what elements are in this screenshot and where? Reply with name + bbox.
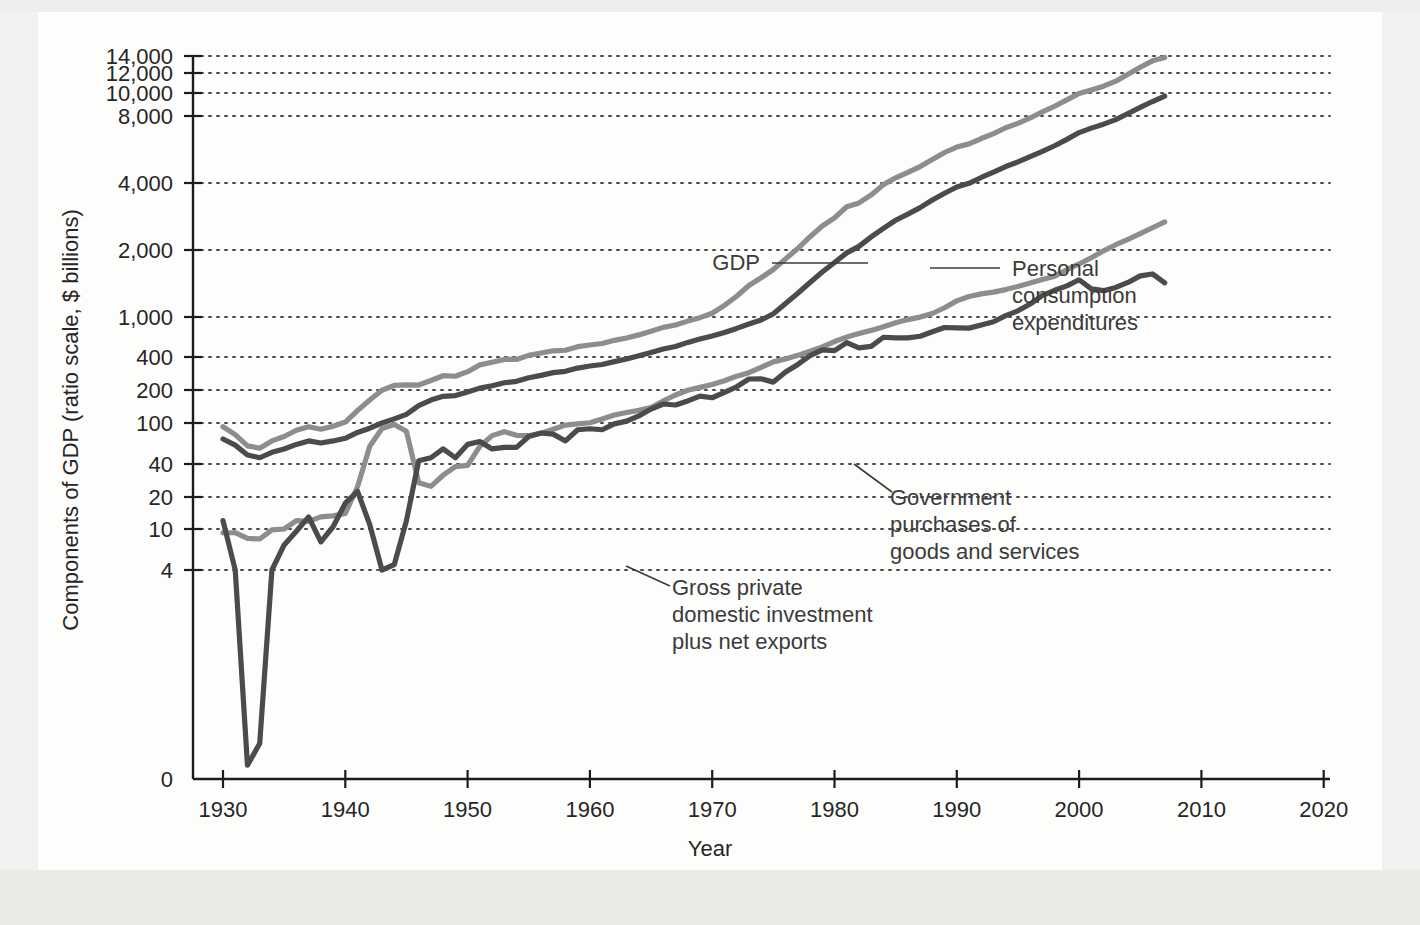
x-tick-label: 1960 <box>565 797 614 822</box>
y-tick-label: 1,000 <box>118 305 173 330</box>
x-axis-title: Year <box>688 836 732 861</box>
annotation-gdp-label: GDP <box>712 250 760 275</box>
axes-group <box>193 56 1330 779</box>
figure-page: 14,00012,00010,0008,0004,0002,0001,00040… <box>0 0 1420 925</box>
y-tick-label: 4 <box>161 558 173 583</box>
annotation-government-leader <box>854 464 892 492</box>
y-tick-label: 4,000 <box>118 171 173 196</box>
x-tick-labels: 1930194019501960197019801990200020102020 <box>199 797 1349 822</box>
annotation-investment: Gross private domestic investment plus n… <box>626 566 873 654</box>
y-tick-label: 40 <box>149 452 173 477</box>
line-chart: 14,00012,00010,0008,0004,0002,0001,00040… <box>0 0 1420 925</box>
data-series-group <box>223 58 1165 766</box>
x-tick-label: 2010 <box>1177 797 1226 822</box>
x-tick-label: 1940 <box>321 797 370 822</box>
x-tick-label: 1930 <box>199 797 248 822</box>
x-tick-label: 1990 <box>932 797 981 822</box>
annotation-investment-leader <box>626 566 670 586</box>
y-tick-label: 200 <box>136 378 173 403</box>
annotation-pce-line2: consumption <box>1012 283 1137 308</box>
x-tick-label: 2020 <box>1299 797 1348 822</box>
y-tick-label: 8,000 <box>118 104 173 129</box>
y-tick-label: 400 <box>136 345 173 370</box>
annotation-investment-line3: plus net exports <box>672 629 827 654</box>
annotation-investment-line2: domestic investment <box>672 602 873 627</box>
annotation-government-line1: Government <box>890 485 1011 510</box>
gridlines-group <box>193 56 1330 570</box>
y-tick-label: 100 <box>136 411 173 436</box>
y-tick-labels: 14,00012,00010,0008,0004,0002,0001,00040… <box>106 44 173 792</box>
y-tick-label: 0 <box>161 767 173 792</box>
x-tick-label: 1980 <box>810 797 859 822</box>
annotation-pce-line1: Personal <box>1012 256 1099 281</box>
y-tick-label: 20 <box>149 485 173 510</box>
annotation-pce-line3: expenditures <box>1012 310 1138 335</box>
series-line <box>223 274 1165 765</box>
y-axis-title: Components of GDP (ratio scale, $ billio… <box>58 209 83 630</box>
annotation-government: Government purchases of goods and servic… <box>854 464 1080 564</box>
annotation-government-line2: purchases of <box>890 512 1017 537</box>
annotation-pce: Personal consumption expenditures <box>930 256 1138 335</box>
annotation-government-line3: goods and services <box>890 539 1080 564</box>
y-tick-label: 2,000 <box>118 238 173 263</box>
y-tick-label: 10 <box>149 517 173 542</box>
annotation-investment-line1: Gross private <box>672 575 803 600</box>
y-tick-label: 10,000 <box>106 81 173 106</box>
x-tick-label: 2000 <box>1055 797 1104 822</box>
x-tick-label: 1950 <box>443 797 492 822</box>
x-tick-label: 1970 <box>688 797 737 822</box>
